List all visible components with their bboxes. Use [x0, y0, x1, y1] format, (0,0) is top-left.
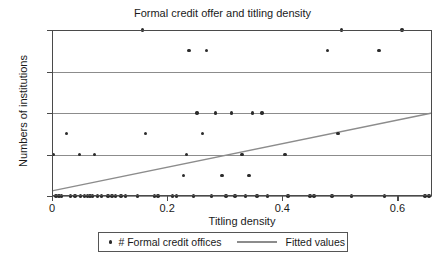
x-tick-label-2: 0.4 [262, 202, 302, 214]
legend-label-line: Fitted values [285, 236, 345, 248]
y-tick-mark-2 [47, 155, 52, 156]
y-tick-mark-8 [47, 30, 52, 31]
y-tick-mark-6 [47, 72, 52, 73]
y-tick-mark-4 [47, 113, 52, 114]
legend-entry-scatter: # Formal credit offices [99, 236, 221, 248]
x-tick-label-1: 0.2 [147, 202, 187, 214]
chart-legend: # Formal credit offices Fitted values [98, 232, 348, 252]
y-axis-label: Numbers of institutions [17, 26, 29, 196]
x-tick-mark-0 [52, 196, 53, 201]
x-tick-mark-3 [397, 196, 398, 201]
x-tick-label-0: 0 [32, 202, 72, 214]
x-axis-label: Titling density [52, 215, 432, 227]
chart-title: Formal credit offer and titling density [0, 7, 445, 19]
plot-frame [52, 30, 432, 196]
x-tick-mark-1 [167, 196, 168, 201]
legend-line-icon [237, 241, 277, 242]
x-tick-label-3: 0.6 [377, 202, 417, 214]
x-tick-mark-2 [282, 196, 283, 201]
legend-label-scatter: # Formal credit offices [118, 236, 221, 248]
legend-dot-icon [109, 240, 112, 243]
legend-entry-line: Fitted values [221, 236, 345, 248]
chart-figure: Formal credit offer and titling density … [0, 0, 445, 259]
